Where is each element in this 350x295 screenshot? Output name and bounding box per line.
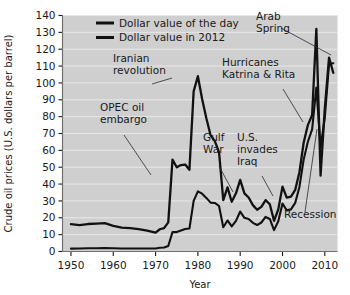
y-tick-label: 10 (42, 228, 55, 240)
annotation-opec-oil-embargo: OPEC oilembargo (100, 101, 147, 125)
x-tick-label: 1950 (58, 259, 85, 271)
annotation-line: embargo (100, 113, 147, 125)
annotation-line: Iranian (113, 52, 150, 64)
y-tick-label: 60 (42, 144, 55, 156)
annotation-line: War (203, 143, 224, 155)
y-tick-label: 50 (42, 161, 55, 173)
y-tick-label: 90 (42, 93, 55, 105)
x-tick-label: 1980 (185, 259, 212, 271)
y-tick-label: 130 (35, 26, 55, 38)
annotation-line: invades (237, 143, 278, 155)
x-tick-label: 1990 (227, 259, 254, 271)
annotation-line: OPEC oil (100, 101, 144, 113)
annotation-line: Hurricanes (222, 56, 279, 68)
y-tick-label: 140 (35, 9, 55, 21)
annotation-line: Katrina & Rita (222, 68, 295, 80)
annotation-line: U.S. (237, 131, 258, 143)
x-tick-label: 2010 (311, 259, 338, 271)
x-tick-label: 1960 (100, 259, 127, 271)
oil-price-chart-figure: 0102030405060708090100110120130140 19501… (0, 0, 350, 295)
x-tick-label: 1970 (142, 259, 169, 271)
x-axis-title: Year (188, 279, 211, 290)
y-tick-label: 70 (42, 127, 55, 139)
annotation-line: Spring (256, 22, 290, 34)
annotation-recession: Recession (284, 208, 336, 220)
y-tick-label: 110 (35, 60, 55, 72)
annotation-line: Arab (256, 10, 281, 22)
y-tick-label: 80 (42, 110, 55, 122)
annotation-line: Iraq (237, 155, 258, 167)
legend-label: Dollar value of the day (119, 17, 239, 29)
annotation-line: Gulf (203, 131, 225, 143)
y-tick-label: 40 (42, 178, 55, 190)
y-tick-label: 120 (35, 43, 55, 55)
annotation-line: Recession (284, 208, 336, 220)
annotation-gulf-war: GulfWar (203, 131, 225, 155)
chart-canvas: 0102030405060708090100110120130140 19501… (0, 0, 350, 295)
annotation-line: revolution (113, 64, 166, 76)
y-tick-label: 0 (49, 245, 56, 257)
legend-label: Dollar value in 2012 (119, 31, 225, 43)
x-tick-label: 2000 (269, 259, 296, 271)
y-tick-label: 20 (42, 211, 55, 223)
y-tick-label: 100 (35, 77, 55, 89)
y-axis-title: Crude oil prices (U.S. dollars per barre… (3, 34, 14, 232)
y-tick-label: 30 (42, 195, 55, 207)
